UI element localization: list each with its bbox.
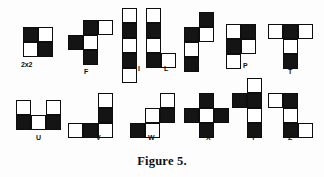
piece-n-cell-white [199,27,214,42]
piece-v-cell-white [68,123,83,138]
piece-x-cell-white [199,108,214,123]
piece-u-cell-white [16,100,31,115]
piece-2x2-cell-black [38,42,53,57]
piece-n [184,12,214,72]
piece-w-label: W [148,134,154,142]
piece-w-cell-white [145,108,160,123]
piece-x-cell-black [214,108,229,123]
piece-i-cell-white [122,38,137,53]
piece-w-cell-black [130,123,145,138]
piece-i-cell-black [122,53,137,68]
piece-t-label: T [288,68,292,76]
piece-2x2-label: 2x2 [21,61,32,69]
piece-x-label: X [206,134,210,142]
piece-y-cell-white [247,108,262,123]
piece-t-cell-white [298,24,313,39]
piece-z-grid [268,93,313,138]
piece-u-cell-white [31,115,46,130]
piece-w-grid [130,93,175,138]
piece-t-cell-white [283,39,298,54]
piece-2x2 [23,27,53,57]
piece-t-grid [268,24,313,69]
piece-z-cell-white [298,123,313,138]
piece-v [68,93,113,138]
piece-x-cell-black [184,108,199,123]
piece-u-grid [16,100,61,130]
piece-f-cell-white [98,20,113,35]
piece-p-grid [226,24,256,69]
piece-f-cell-black [83,50,98,65]
piece-l-label: L [164,65,168,73]
piece-i-cell-white [122,68,137,83]
piece-u [16,100,61,130]
piece-z [268,93,313,138]
piece-f-label: F [84,68,88,76]
piece-i-label: I [138,65,140,73]
piece-i-grid [122,8,137,83]
piece-z-cell-black [283,93,298,108]
piece-t-cell-white [268,24,283,39]
piece-l-grid [146,8,176,68]
piece-u-cell-black [16,115,31,130]
piece-t [268,24,313,69]
piece-l-cell-black [146,23,161,38]
piece-p-cell-black [241,24,256,39]
piece-n-cell-white [184,42,199,57]
piece-t-cell-black [283,54,298,69]
piece-w-cell-white [160,93,175,108]
piece-l-cell-white [146,38,161,53]
piece-p-cell-white [241,39,256,54]
piece-p-label: P [243,62,247,70]
piece-p-cell-white [226,24,241,39]
piece-p-cell-white [226,54,241,69]
piece-z-cell-white [283,108,298,123]
piece-w [130,93,175,138]
piece-w-cell-black [160,108,175,123]
piece-2x2-cell-black [23,27,38,42]
piece-y-cell-black [232,93,247,108]
piece-u-cell-white [46,100,61,115]
piece-y [232,78,262,138]
piece-2x2-grid [23,27,53,57]
piece-l-cell-black [146,53,161,68]
piece-x-cell-black [199,93,214,108]
piece-y-cell-black [247,93,262,108]
piece-y-grid [232,78,262,138]
piece-i-cell-black [122,23,137,38]
piece-p-cell-black [226,39,241,54]
figure-caption: Figure 5. [0,154,324,169]
piece-l-cell-white [146,8,161,23]
piece-f-grid [68,20,113,65]
piece-t-cell-black [283,24,298,39]
piece-x [184,93,229,138]
figure-canvas: 2x2FILNPTUVWXYZ Figure 5. [0,0,324,177]
piece-f-cell-white [83,35,98,50]
piece-u-label: U [36,134,41,142]
piece-v-cell-black [98,108,113,123]
piece-n-cell-black [184,27,199,42]
piece-y-label: Y [251,134,255,142]
piece-2x2-cell-white [23,42,38,57]
piece-l [146,8,176,68]
piece-i-cell-white [122,8,137,23]
piece-p [226,24,256,69]
piece-f [68,20,113,65]
piece-v-label: V [96,134,100,142]
piece-i [122,8,137,83]
piece-f-cell-black [68,35,83,50]
piece-n-label: N [194,66,199,74]
piece-u-cell-black [46,115,61,130]
piece-2x2-cell-white [38,27,53,42]
piece-n-cell-black [199,12,214,27]
piece-x-grid [184,93,229,138]
piece-z-label: Z [288,134,292,142]
piece-n-grid [184,12,214,72]
piece-v-grid [68,93,113,138]
piece-z-cell-white [268,93,283,108]
piece-v-cell-white [98,93,113,108]
piece-y-cell-white [247,78,262,93]
piece-f-cell-black [83,20,98,35]
